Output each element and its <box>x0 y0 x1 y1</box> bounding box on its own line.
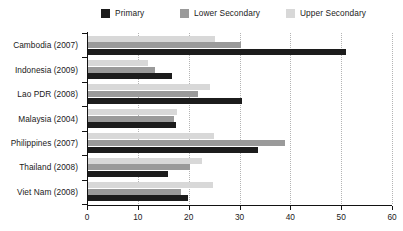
legend-item-upper-secondary[interactable]: Upper Secondary <box>286 6 366 20</box>
bar-chart: Primary Lower Secondary Upper Secondary … <box>0 0 403 231</box>
x-tick-10 <box>138 206 139 210</box>
y-tick <box>82 131 87 132</box>
bar-lower-secondary <box>87 140 285 146</box>
category-label: Philippines (2007) <box>11 138 78 148</box>
bar-upper-secondary <box>87 109 177 115</box>
bar-primary <box>87 171 168 177</box>
category-label: Lao PDR (2008) <box>17 89 78 99</box>
bar-primary <box>87 147 258 153</box>
bar-primary <box>87 73 172 79</box>
legend-item-primary[interactable]: Primary <box>101 6 144 20</box>
plot-area <box>87 33 392 204</box>
category-label: Indonesia (2009) <box>15 65 78 75</box>
x-tick-40 <box>290 206 291 210</box>
x-tick-label-50: 50 <box>321 212 361 222</box>
bar-lower-secondary <box>87 91 198 97</box>
gridline-50 <box>341 33 342 204</box>
bar-primary <box>87 122 176 128</box>
x-tick-label-40: 40 <box>270 212 310 222</box>
category-label: Thailand (2008) <box>19 162 78 172</box>
legend-swatch-lower-secondary <box>180 9 189 18</box>
bar-primary <box>87 98 242 104</box>
bar-lower-secondary <box>87 189 181 195</box>
bar-primary <box>87 195 188 201</box>
x-tick-label-60: 60 <box>372 212 403 222</box>
legend-swatch-upper-secondary <box>286 9 295 18</box>
x-tick-label-20: 20 <box>169 212 209 222</box>
category-label: Viet Nam (2008) <box>17 187 78 197</box>
category-label: Cambodia (2007) <box>13 40 78 50</box>
gridline-30 <box>240 33 241 204</box>
bar-upper-secondary <box>87 158 202 164</box>
x-tick-20 <box>189 206 190 210</box>
bar-upper-secondary <box>87 182 213 188</box>
x-tick-label-10: 10 <box>118 212 158 222</box>
y-tick <box>82 57 87 58</box>
y-tick <box>82 204 87 205</box>
gridline-40 <box>290 33 291 204</box>
x-tick-50 <box>341 206 342 210</box>
legend-label-lower-secondary: Lower Secondary <box>194 8 260 18</box>
bar-lower-secondary <box>87 116 174 122</box>
y-tick <box>82 155 87 156</box>
y-axis-line <box>87 32 88 206</box>
legend-label-upper-secondary: Upper Secondary <box>300 8 366 18</box>
bar-lower-secondary <box>87 42 241 48</box>
chart-legend: Primary Lower Secondary Upper Secondary <box>0 6 403 22</box>
bar-upper-secondary <box>87 60 148 66</box>
gridline-20 <box>189 33 190 204</box>
x-tick-30 <box>240 206 241 210</box>
y-tick <box>82 82 87 83</box>
bar-primary <box>87 49 346 55</box>
gridline-60 <box>392 33 393 204</box>
bar-upper-secondary <box>87 133 214 139</box>
legend-swatch-primary <box>101 9 110 18</box>
bar-upper-secondary <box>87 84 210 90</box>
bar-lower-secondary <box>87 67 155 73</box>
category-label: Malaysia (2004) <box>18 114 78 124</box>
bar-upper-secondary <box>87 36 215 42</box>
x-tick-label-30: 30 <box>220 212 260 222</box>
x-tick-label-0: 0 <box>67 212 107 222</box>
y-tick <box>82 106 87 107</box>
x-tick-0 <box>87 206 88 210</box>
y-tick <box>82 33 87 34</box>
bar-lower-secondary <box>87 164 190 170</box>
legend-item-lower-secondary[interactable]: Lower Secondary <box>180 6 260 20</box>
x-tick-60 <box>392 206 393 210</box>
legend-label-primary: Primary <box>115 8 144 18</box>
y-tick <box>82 180 87 181</box>
